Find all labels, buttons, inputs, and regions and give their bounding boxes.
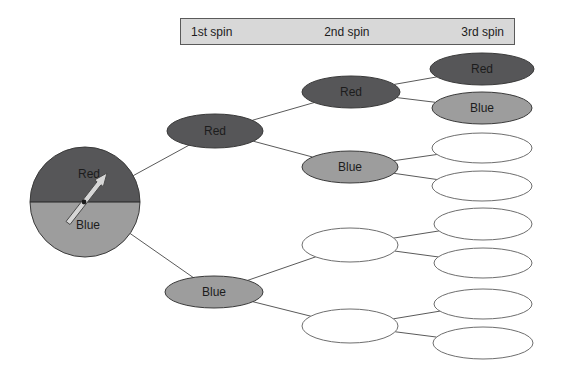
tree-edge-s2-red-to-s3-blue [397, 98, 435, 103]
tree-node-s3-e4 [434, 248, 532, 278]
tree-node-s3-e2 [432, 171, 532, 201]
column-header-1st-spin: 1st spin [191, 25, 232, 39]
tree-node-s3-red-label: Red [471, 62, 493, 76]
tree-node-s3-e5 [434, 289, 532, 319]
tree-edge-s1-red-to-s2-red [252, 103, 314, 121]
probability-tree-diagram: RedBlueRedBlueRedBlue Red Blue 1st spin … [0, 0, 564, 374]
tree-edge-s1-red-to-s2-blue [253, 141, 312, 157]
tree-node-s2-e1 [302, 228, 398, 262]
column-header-2nd-spin: 2nd spin [324, 25, 369, 39]
tree-node-s3-blue-label: Blue [470, 101, 494, 115]
tree-edge-s2-e2-to-s3-e6 [395, 332, 436, 337]
spinner-blue-label: Blue [76, 218, 100, 232]
tree-node-s2-red-label: Red [340, 85, 362, 99]
tree-node-s3-e6 [433, 327, 533, 359]
tree-edge-s2-blue-to-s3-e1 [394, 154, 437, 160]
tree-edge-s2-red-to-s3-red [394, 77, 437, 84]
tree-edge-s1-blue-to-s2-e2 [253, 302, 311, 316]
tree-node-s1-red-label: Red [204, 124, 226, 138]
tree-edge-spinner-to-s1-blue [130, 233, 193, 277]
tree-edge-s2-e1-to-s3-e3 [394, 231, 439, 238]
tree-node-s1-blue-label: Blue [202, 285, 226, 299]
spinner: Red Blue [30, 147, 140, 257]
tree-edge-spinner-to-s1-red [133, 145, 189, 175]
tree-node-s3-e3 [434, 208, 532, 240]
tree-node-s2-blue-label: Blue [338, 160, 362, 174]
tree-node-s2-e2 [302, 309, 398, 343]
column-header-3rd-spin: 3rd spin [461, 25, 504, 39]
tree-edge-s2-blue-to-s3-e2 [394, 173, 437, 179]
tree-edge-s1-blue-to-s2-e1 [248, 257, 316, 280]
spinner-pivot-dot [82, 200, 87, 205]
nodes-layer: RedBlueRedBlueRedBlue [165, 53, 534, 359]
tree-node-s3-e1 [432, 133, 532, 163]
column-header-bar: 1st spin 2nd spin 3rd spin [180, 18, 515, 45]
tree-edge-s2-e2-to-s3-e5 [393, 311, 439, 319]
tree-svg: RedBlueRedBlueRedBlue Red Blue [0, 0, 564, 374]
tree-edge-s2-e1-to-s3-e4 [395, 251, 438, 257]
